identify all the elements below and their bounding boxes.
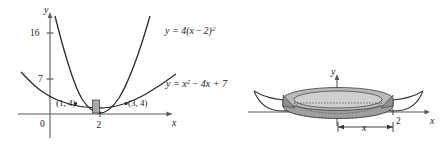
svg-text:y = x2− 4x + 7: y = x2− 4x + 7	[165, 78, 228, 90]
eq2-rest: − 4x + 7	[192, 78, 228, 89]
eq1-minus: −	[196, 25, 202, 36]
left-tick-label-2: 2	[97, 120, 102, 130]
right-panel-solid: y x x 2	[248, 66, 435, 133]
eq2-prefix: y = x	[165, 78, 187, 89]
left-tick-label-7: 7	[38, 74, 43, 84]
right-y-axis-label: y	[330, 66, 336, 77]
right-x-axis-label: x	[429, 115, 435, 126]
left-y-axis	[48, 12, 53, 138]
left-y-axis-label: y	[43, 4, 49, 15]
right-tick-label-2: 2	[396, 116, 401, 126]
equation-label-narrow-parabola: y = 4(x−2)2	[164, 25, 216, 38]
right-x-axis-arrowhead	[425, 110, 431, 115]
point-label-left: (1, 4)	[56, 98, 76, 108]
solid-inner-ellipse	[294, 91, 382, 108]
eq2-exponent: 2	[187, 78, 191, 86]
equation-label-wide-parabola: y = x2− 4x + 7	[165, 78, 228, 90]
figure-canvas: y x 0 16 7 2 (1, 4) (3, 4) y = 4(x−2)2 y…	[0, 0, 441, 149]
representative-rectangle	[93, 100, 100, 113]
left-tick-label-16: 16	[30, 28, 40, 38]
dimension-x-label: x	[361, 122, 367, 133]
svg-text:y = 4(x−2)2: y = 4(x−2)2	[164, 25, 216, 38]
left-origin-label: 0	[40, 119, 45, 129]
point-label-right: (3, 4)	[128, 98, 148, 108]
math-figure-container: y x 0 16 7 2 (1, 4) (3, 4) y = 4(x−2)2 y…	[0, 0, 441, 149]
left-panel-graph: y x 0 16 7 2 (1, 4) (3, 4) y = 4(x−2)2 y…	[18, 4, 228, 138]
eq1-exponent: 2	[212, 25, 216, 33]
dimension-x-arrow-right	[387, 125, 393, 129]
dimension-x-arrow-left	[338, 125, 344, 129]
left-x-axis-arrowhead	[167, 112, 173, 117]
left-x-axis-label: x	[171, 117, 177, 128]
eq1-prefix: y = 4(x	[164, 25, 195, 37]
